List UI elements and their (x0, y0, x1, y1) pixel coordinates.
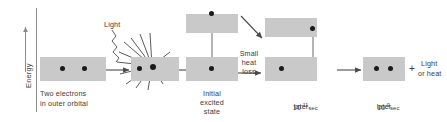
panel-emission-time-suffix: later (358, 102, 410, 111)
panel-excited-upper-band (186, 14, 238, 33)
panel-excited-caption-line-3: state (186, 107, 238, 116)
photon-zigzag (112, 30, 119, 62)
output-label-line-2: or heat (418, 69, 441, 78)
panel-ground-caption-line-2: in outer orbital (40, 99, 88, 108)
panel-absorption-electron-2 (150, 64, 156, 70)
panel-excited-electron-lower (209, 66, 214, 71)
energy-axis-label: Energy (24, 63, 33, 88)
panel-relaxed-lower-band (265, 57, 317, 81)
heat-loss-label-line-2: heat (233, 58, 265, 67)
panel-ground-electron-2 (82, 66, 87, 71)
panel-ground-electron-1 (60, 66, 65, 71)
panel-emission-lower-band (363, 57, 405, 81)
diagonal-transition-arrow (241, 16, 262, 38)
panel-emission-electron-1 (374, 66, 379, 71)
panel-excited-caption-line-1: Initial (186, 89, 238, 98)
panel-ground-lower-band (40, 57, 106, 81)
output-label-line-1: Light (421, 59, 437, 68)
panel-ground-caption-line-1: Two electrons (40, 89, 86, 98)
panel-emission-electron-2 (388, 66, 393, 71)
panel-relaxed-time-suffix: later (275, 102, 327, 111)
panel-excited-caption-line-2: excited (186, 98, 238, 107)
panel-relaxed-electron-lower (279, 66, 284, 71)
energy-diagram-figure: Energy Two electrons in outer orbital Li… (0, 0, 447, 122)
panel-excited-electron-upper (209, 11, 214, 16)
heat-loss-label-line-1: Small (233, 49, 265, 58)
panel-relaxed-electron-upper (310, 26, 315, 31)
plus-sign: + (409, 63, 415, 74)
heat-loss-label-line-3: loss (233, 67, 265, 76)
panel-absorption-electron-1 (137, 66, 142, 71)
photon-label: Light (104, 20, 120, 29)
